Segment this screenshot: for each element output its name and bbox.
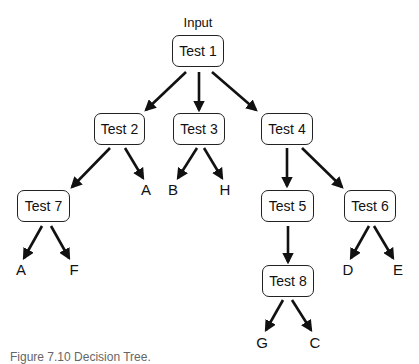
edge-arrow-t8-t8_g [266, 300, 283, 330]
edge-arrow-t3-t3_b [178, 148, 197, 178]
decision-node-t7: Test 7 [17, 190, 70, 222]
decision-node-t4: Test 4 [261, 113, 313, 145]
input-label: Input [184, 15, 213, 30]
leaf-label-t7_a: A [16, 261, 26, 278]
leaf-label-t8_g: G [256, 334, 268, 351]
leaf-label-t2_a: A [141, 181, 151, 198]
edge-arrow-t2-t2_a [125, 148, 143, 178]
leaf-label-t6_e: E [393, 261, 403, 278]
edge-arrow-t6-t6_e [374, 226, 393, 258]
leaf-label-t6_d: D [343, 261, 354, 278]
figure-caption: Figure 7.10 Decision Tree. [10, 350, 151, 364]
decision-node-t8: Test 8 [262, 265, 314, 297]
edge-arrow-t8-t8_c [292, 300, 311, 330]
leaf-label-t8_c: C [310, 334, 321, 351]
decision-node-t1: Test 1 [172, 35, 224, 67]
edge-arrow-t2-t7 [72, 148, 110, 187]
decision-node-t3: Test 3 [173, 113, 225, 145]
edge-arrow-t4-t6 [302, 148, 342, 187]
decision-node-t6: Test 6 [344, 190, 396, 222]
edge-arrow-t3-t3_h [204, 148, 222, 178]
edge-arrow-t7-t7_f [51, 226, 69, 258]
edge-arrow-t1-t2 [146, 72, 186, 110]
leaf-label-t3_h: H [220, 181, 231, 198]
edge-arrow-t6-t6_d [351, 226, 369, 258]
leaf-label-t7_f: F [69, 261, 78, 278]
decision-node-t5: Test 5 [261, 190, 314, 222]
edge-arrow-t1-t4 [212, 72, 256, 110]
decision-node-t2: Test 2 [94, 113, 145, 145]
leaf-label-t3_b: B [168, 181, 178, 198]
edge-arrow-t7-t7_a [24, 226, 42, 258]
